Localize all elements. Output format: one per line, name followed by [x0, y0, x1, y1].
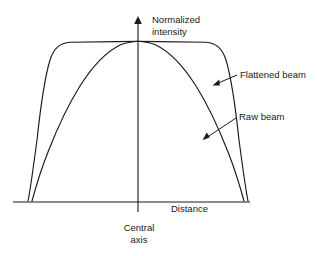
y-axis-label-line1: Normalized	[152, 14, 200, 25]
flattened-beam-annotation-label: Flattened beam	[240, 69, 306, 81]
central-axis-label-line2: axis	[131, 234, 148, 245]
y-axis-label: Normalizedintensity	[152, 14, 200, 37]
flattened-beam-arrowhead	[213, 80, 220, 86]
central-axis-label: Centralaxis	[108, 222, 170, 245]
x-axis-label: Distance	[171, 203, 208, 215]
y-axis-arrowhead	[134, 16, 142, 24]
raw-beam-arrowhead	[203, 132, 210, 140]
diagram-canvas: Normalizedintensity Distance Centralaxis…	[0, 0, 317, 256]
y-axis-label-line2: intensity	[152, 26, 187, 37]
raw-beam-annotation-label: Raw beam	[239, 111, 284, 123]
beam-profile-figure	[0, 0, 317, 256]
central-axis-label-line1: Central	[124, 222, 155, 233]
